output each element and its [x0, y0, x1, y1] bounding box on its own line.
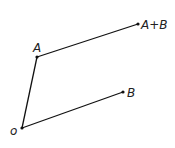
label-a-plus-b: A+B	[140, 18, 168, 32]
point-o	[20, 126, 23, 129]
point-a-plus-b	[136, 22, 139, 25]
diagram-svg: o A B A+B	[0, 0, 175, 148]
vector-diagram: o A B A+B	[0, 0, 175, 148]
edge-o-to-a	[22, 57, 37, 128]
point-a	[35, 55, 38, 58]
edge-o-to-b	[22, 92, 123, 128]
label-o: o	[10, 124, 17, 138]
label-a: A	[32, 41, 41, 55]
edge-a-to-apb	[37, 24, 138, 57]
point-b	[121, 90, 124, 93]
label-b: B	[127, 86, 135, 100]
